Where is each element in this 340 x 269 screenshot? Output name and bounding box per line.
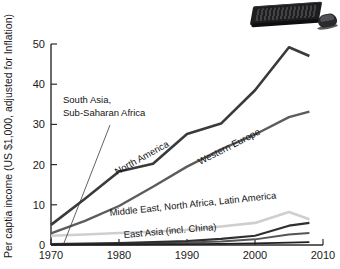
y-tick-label-20: 20 [33, 159, 45, 171]
y-tick-label-40: 40 [33, 78, 45, 90]
x-tick-label-1980: 1980 [107, 249, 131, 261]
y-tick-label-30: 30 [33, 118, 45, 130]
y-axis-ticks: 50 40 30 20 10 0 [33, 38, 57, 251]
y-axis-title: Per captia income (US $1,000, adjusted f… [2, 14, 14, 258]
y-tick-label-10: 10 [33, 199, 45, 211]
east-asia-label: East Asia (incl. China) [123, 221, 217, 240]
x-tick-label-2000: 2000 [243, 249, 267, 261]
line-chart: Per captia income (US $1,000, adjusted f… [0, 0, 340, 269]
y-tick-label-50: 50 [33, 38, 45, 50]
x-tick-label-2010: 2010 [311, 249, 335, 261]
western-europe-label: Western Europe [196, 126, 262, 167]
south-asia-label-line1: South Asia, [63, 94, 111, 105]
middle-east-label: Middle East, North Africa, Latin America [109, 189, 277, 218]
series-group [51, 47, 309, 245]
south-asia-label-line2: Sub-Saharan Africa [63, 107, 146, 118]
series-line-western-europe [51, 112, 309, 234]
x-tick-label-1990: 1990 [175, 249, 199, 261]
chart-page: Per captia income (US $1,000, adjusted f… [0, 0, 340, 269]
x-tick-label-1970: 1970 [39, 249, 63, 261]
